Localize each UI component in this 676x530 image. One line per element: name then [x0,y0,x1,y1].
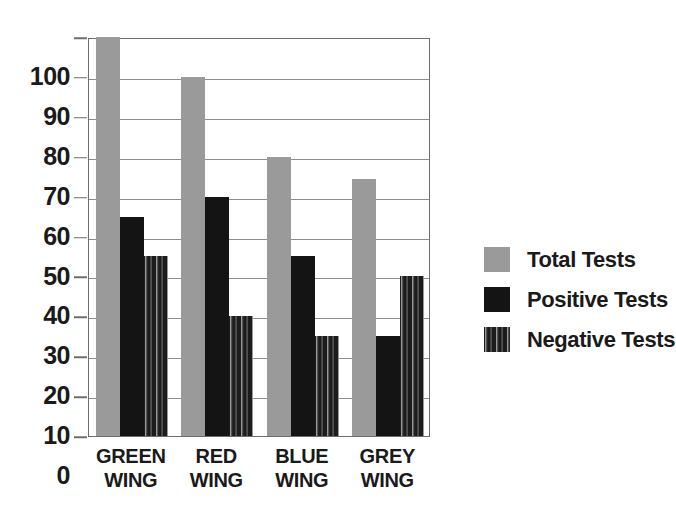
bar [267,157,291,436]
plot-area [88,38,430,437]
chart-legend: Total TestsPositive TestsNegative Tests [484,241,674,361]
y-axis-tick-mark [74,436,87,438]
y-axis-tick-label: 30 [43,343,70,368]
bar [315,336,339,436]
x-axis-category-line: GREY [345,444,431,468]
legend-swatch-positive [484,287,510,312]
x-axis-category-line: WING [174,468,260,492]
bar [376,336,400,436]
legend-swatch-negative [484,327,510,352]
legend-item: Total Tests [484,241,674,278]
y-axis-tick-mark [74,117,87,119]
bars-layer [89,39,429,436]
y-axis-tick-mark [74,37,87,39]
legend-item: Positive Tests [484,281,674,318]
bar-group [267,39,339,436]
bar [181,77,205,436]
legend-label: Positive Tests [527,287,668,313]
bar-group [181,39,253,436]
y-axis: 1009080706050403020100 [0,38,88,437]
x-axis-category-label: REDWING [174,444,260,493]
x-axis-category-line: WING [345,468,431,492]
bar-group [352,39,424,436]
y-axis-tick-label: 50 [43,263,70,288]
x-axis-category-line: RED [174,444,260,468]
y-axis-tick-label: 0 [57,463,70,488]
legend-label: Total Tests [527,247,635,273]
y-axis-tick-mark [74,396,87,398]
y-axis-tick-mark [74,237,87,239]
x-axis-category-label: GREYWING [345,444,431,493]
bar [120,217,144,436]
bar [144,256,168,436]
legend-label: Negative Tests [527,327,675,353]
y-axis-tick-labels: 1009080706050403020100 [0,76,70,475]
y-axis-tick-label: 90 [43,103,70,128]
bar [400,276,424,436]
y-axis-tick-mark [74,317,87,319]
y-axis-tick-label: 10 [43,423,70,448]
x-axis-category-label: GREENWING [88,444,174,493]
bar [352,179,376,436]
y-axis-tick-mark [74,356,87,358]
y-axis-tick-mark [74,157,87,159]
x-axis-category-line: BLUE [259,444,345,468]
x-axis-category-label: BLUEWING [259,444,345,493]
x-axis-category-line: GREEN [88,444,174,468]
y-axis-tick-mark [74,197,87,199]
bar-group [96,39,168,436]
bar [205,197,229,436]
bar-chart: 1009080706050403020100 GREENWINGREDWINGB… [0,0,676,530]
x-axis-category-line: WING [88,468,174,492]
legend-item: Negative Tests [484,321,674,358]
bar [96,37,120,436]
x-axis-category-labels: GREENWINGREDWINGBLUEWINGGREYWING [88,444,430,514]
y-axis-tick-label: 100 [30,64,70,89]
y-axis-tick-label: 60 [43,223,70,248]
y-axis-tick-mark [74,77,87,79]
y-axis-tick-mark [74,277,87,279]
bar [291,256,315,436]
y-axis-tick-label: 40 [43,303,70,328]
bar [229,316,253,436]
y-axis-tick-label: 20 [43,383,70,408]
y-axis-tick-label: 70 [43,183,70,208]
y-axis-tick-label: 80 [43,143,70,168]
legend-swatch-total [484,247,510,272]
x-axis-category-line: WING [259,468,345,492]
